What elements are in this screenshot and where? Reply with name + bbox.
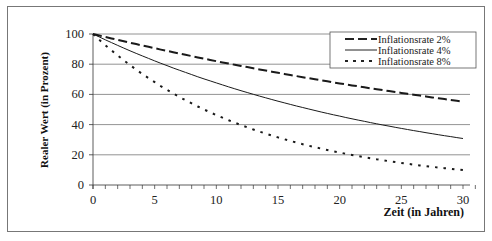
y-tick-label: 60 xyxy=(72,87,85,101)
x-tick-label: 15 xyxy=(272,193,285,207)
x-tick-label: 10 xyxy=(210,193,223,207)
y-tick-label: 100 xyxy=(65,27,84,41)
legend-item-8: Inflationsrate 8% xyxy=(378,56,451,67)
legend: Inflationsrate 2% Inflationsrate 4% Infl… xyxy=(330,32,476,68)
y-tick-label: 80 xyxy=(72,57,85,71)
legend-item-2: Inflationsrate 2% xyxy=(378,34,451,45)
x-axis-label: Zeit (in Jahren) xyxy=(384,205,464,219)
x-tick-label: 20 xyxy=(333,193,346,207)
legend-item-4: Inflationsrate 4% xyxy=(378,45,451,56)
y-tick-label: 0 xyxy=(78,178,84,192)
x-tick-label: 0 xyxy=(90,193,96,207)
y-axis-label: Realer Wert (in Prozent) xyxy=(38,52,51,168)
x-tick-label: 5 xyxy=(152,193,158,207)
line-chart: 020406080100051015202530 Realer Wert (in… xyxy=(0,0,492,241)
y-tick-label: 40 xyxy=(72,118,85,132)
y-tick-label: 20 xyxy=(72,148,85,162)
